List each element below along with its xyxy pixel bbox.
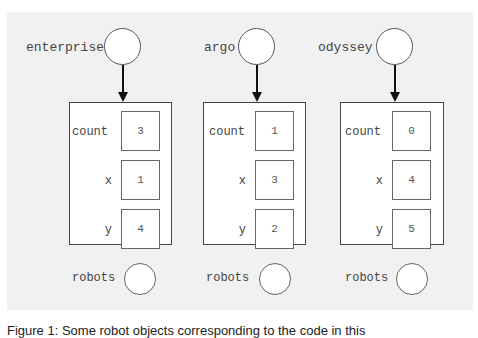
reference-circle <box>376 28 413 65</box>
field-value-count: 0 <box>392 111 431 151</box>
field-value-x: 3 <box>255 160 294 200</box>
pointer-arrow <box>394 65 396 94</box>
arrow-head-icon <box>252 92 262 102</box>
pointer-arrow <box>122 65 124 94</box>
variable-label: argo <box>204 40 235 55</box>
field-label-count: count <box>345 125 393 139</box>
reference-circle <box>104 28 141 65</box>
pointer-arrow <box>256 65 258 94</box>
robots-reference-circle <box>259 263 291 295</box>
variable-label: odyssey <box>318 40 373 55</box>
field-label-robots: robots <box>345 271 393 285</box>
field-label-robots: robots <box>72 271 120 285</box>
arrow-head-icon <box>390 92 400 102</box>
variable-label: enterprise <box>26 40 104 55</box>
arrow-head-icon <box>118 92 128 102</box>
reference-circle <box>238 28 275 65</box>
field-label-x: x <box>72 174 112 188</box>
field-value-y: 5 <box>392 209 431 249</box>
field-value-count: 3 <box>121 111 160 151</box>
field-label-y: y <box>343 223 383 237</box>
field-label-x: x <box>343 174 383 188</box>
field-label-x: x <box>206 174 246 188</box>
field-label-y: y <box>206 223 246 237</box>
field-label-count: count <box>72 125 120 139</box>
robots-reference-circle <box>124 263 156 295</box>
field-label-robots: robots <box>206 271 254 285</box>
field-value-x: 4 <box>392 160 431 200</box>
figure-caption: Figure 1: Some robot objects correspondi… <box>7 323 365 338</box>
field-value-y: 4 <box>121 209 160 249</box>
field-value-count: 1 <box>255 111 294 151</box>
robots-reference-circle <box>396 263 428 295</box>
field-label-y: y <box>72 223 112 237</box>
field-value-x: 1 <box>121 160 160 200</box>
field-value-y: 2 <box>255 209 294 249</box>
field-label-count: count <box>209 125 257 139</box>
